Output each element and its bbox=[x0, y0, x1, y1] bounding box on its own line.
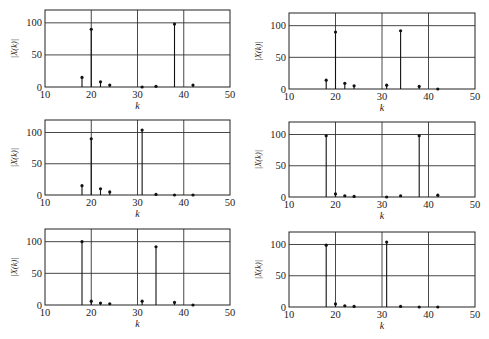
x-axis-label: k bbox=[135, 318, 140, 329]
stem-marker bbox=[353, 305, 356, 308]
stem-marker bbox=[325, 134, 328, 137]
y-tick-label: 0 bbox=[37, 300, 42, 311]
stem-marker bbox=[353, 84, 356, 87]
stem-marker bbox=[80, 184, 83, 187]
stem-chart-3: 1020304050050100k|X(k)| bbox=[9, 120, 235, 219]
x-tick-label: 40 bbox=[179, 307, 190, 318]
y-axis-label: |X(k)| bbox=[9, 257, 19, 276]
stem-marker bbox=[99, 187, 102, 190]
stem-marker bbox=[108, 190, 111, 193]
y-tick-label: 100 bbox=[26, 17, 42, 28]
y-tick-label: 100 bbox=[270, 20, 286, 31]
y-axis-label: |X(k)| bbox=[253, 150, 263, 169]
x-tick-label: 20 bbox=[330, 309, 341, 320]
stem-marker bbox=[108, 302, 111, 305]
y-tick-label: 0 bbox=[281, 84, 286, 95]
stem-marker bbox=[90, 137, 93, 140]
stem-marker bbox=[334, 192, 337, 195]
y-tick-label: 0 bbox=[37, 190, 42, 201]
stem-marker bbox=[325, 244, 328, 247]
stem-marker bbox=[325, 79, 328, 82]
stem-chart-6: 1020304050050100k|X(k)| bbox=[253, 232, 480, 331]
stem-marker bbox=[399, 194, 402, 197]
stem-chart-1: 1020304050050100k|X(k)| bbox=[9, 10, 235, 111]
x-tick-label: 20 bbox=[86, 307, 97, 318]
y-tick-label: 50 bbox=[32, 49, 43, 60]
stem-marker bbox=[80, 240, 83, 243]
stem-marker bbox=[418, 85, 421, 88]
y-tick-label: 50 bbox=[276, 270, 287, 281]
stem-marker bbox=[343, 194, 346, 197]
stem-chart-4: 1020304050050100k|X(k)| bbox=[253, 122, 480, 221]
stem-marker bbox=[154, 193, 157, 196]
stem-marker bbox=[334, 30, 337, 33]
x-axis-label: k bbox=[135, 208, 140, 219]
x-tick-label: 40 bbox=[179, 197, 190, 208]
stem-marker bbox=[191, 303, 194, 306]
x-tick-label: 30 bbox=[377, 91, 388, 102]
stem-marker bbox=[99, 80, 102, 83]
stem-marker bbox=[141, 85, 144, 88]
stem-marker bbox=[436, 305, 439, 308]
x-tick-label: 20 bbox=[330, 199, 341, 210]
stem-marker bbox=[90, 300, 93, 303]
stem-marker bbox=[154, 245, 157, 248]
stem-marker bbox=[385, 84, 388, 87]
stem-chart-2: 1020304050050100k|X(k)| bbox=[253, 13, 480, 113]
stem-marker bbox=[99, 302, 102, 305]
x-tick-label: 40 bbox=[423, 199, 434, 210]
x-tick-label: 50 bbox=[225, 307, 236, 318]
x-axis-label: k bbox=[135, 100, 140, 111]
stem-marker bbox=[154, 85, 157, 88]
x-tick-label: 30 bbox=[132, 197, 143, 208]
x-tick-label: 50 bbox=[225, 89, 236, 100]
x-tick-label: 50 bbox=[470, 309, 481, 320]
stem-marker bbox=[141, 128, 144, 131]
x-tick-label: 30 bbox=[132, 89, 143, 100]
stem-marker bbox=[334, 302, 337, 305]
stem-chart-5: 1020304050050100k|X(k)| bbox=[9, 229, 235, 329]
x-tick-label: 20 bbox=[330, 91, 341, 102]
stem-marker bbox=[173, 301, 176, 304]
stem-marker bbox=[343, 82, 346, 85]
stem-marker bbox=[108, 83, 111, 86]
stem-marker bbox=[343, 304, 346, 307]
stem-marker bbox=[399, 305, 402, 308]
stem-marker bbox=[173, 193, 176, 196]
x-tick-label: 20 bbox=[86, 89, 97, 100]
stem-marker bbox=[399, 29, 402, 32]
y-axis-label: |X(k)| bbox=[253, 41, 263, 60]
y-axis-label: |X(k)| bbox=[9, 148, 19, 167]
stem-marker bbox=[436, 194, 439, 197]
stem-marker bbox=[436, 87, 439, 90]
stem-marker bbox=[418, 134, 421, 137]
stem-marker bbox=[191, 83, 194, 86]
y-tick-label: 100 bbox=[26, 236, 42, 247]
x-axis-label: k bbox=[380, 320, 385, 331]
stem-marker bbox=[173, 23, 176, 26]
y-axis-label: |X(k)| bbox=[253, 260, 263, 279]
y-tick-label: 50 bbox=[32, 158, 43, 169]
x-tick-label: 40 bbox=[179, 89, 190, 100]
x-tick-label: 40 bbox=[423, 91, 434, 102]
x-tick-label: 40 bbox=[423, 309, 434, 320]
y-tick-label: 50 bbox=[276, 52, 287, 63]
stem-marker bbox=[80, 76, 83, 79]
x-axis-label: k bbox=[380, 210, 385, 221]
y-tick-label: 50 bbox=[276, 160, 287, 171]
x-tick-label: 30 bbox=[377, 309, 388, 320]
y-tick-label: 100 bbox=[270, 129, 286, 140]
x-tick-label: 30 bbox=[132, 307, 143, 318]
x-tick-label: 50 bbox=[470, 199, 481, 210]
x-tick-label: 20 bbox=[86, 197, 97, 208]
stem-marker bbox=[141, 300, 144, 303]
x-axis-label: k bbox=[380, 102, 385, 113]
y-tick-label: 0 bbox=[281, 192, 286, 203]
stem-marker bbox=[385, 195, 388, 198]
stem-marker bbox=[385, 240, 388, 243]
y-tick-label: 100 bbox=[26, 127, 42, 138]
stem-marker bbox=[191, 193, 194, 196]
y-tick-label: 100 bbox=[270, 239, 286, 250]
x-tick-label: 50 bbox=[225, 197, 236, 208]
y-tick-label: 0 bbox=[37, 82, 42, 93]
